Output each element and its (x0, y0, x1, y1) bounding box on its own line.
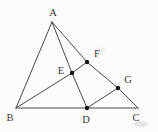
point-dot-G (116, 86, 120, 90)
point-label-D: D (82, 114, 90, 125)
point-label-A: A (49, 7, 57, 18)
point-dot-D (85, 106, 89, 110)
geometry-figure: ABCDEFG (0, 0, 158, 132)
point-label-F: F (94, 48, 100, 59)
point-label-C: C (132, 112, 139, 123)
point-dot-E (70, 71, 74, 75)
point-label-G: G (124, 74, 132, 85)
point-dot-F (85, 60, 89, 64)
point-label-B: B (6, 112, 13, 123)
figure-canvas: ABCDEFG (0, 0, 158, 132)
point-label-E: E (58, 65, 64, 76)
